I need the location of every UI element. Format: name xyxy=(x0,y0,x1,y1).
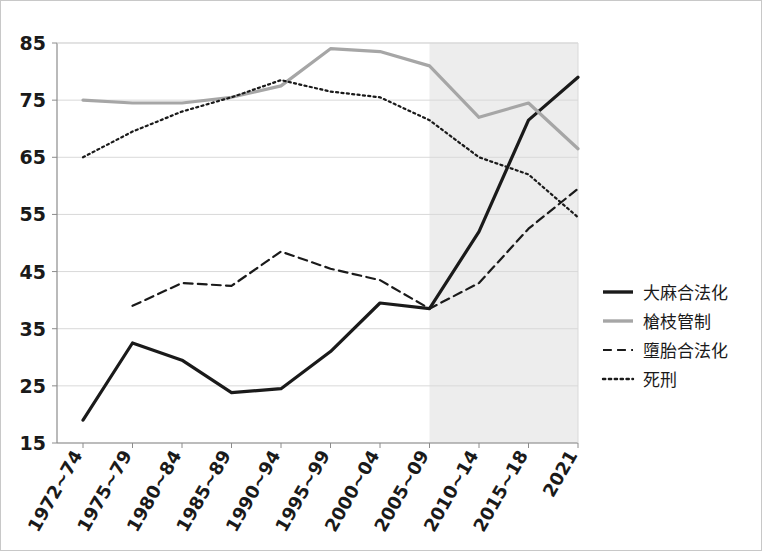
shade-rect xyxy=(430,43,579,443)
y-axis-label-45: 45 xyxy=(20,261,46,283)
x-axis-label-10: 2021 xyxy=(538,447,581,501)
y-axis-label-25: 25 xyxy=(20,375,46,397)
chart-legend: 大麻合法化槍枝管制墮胎合法化死刑 xyxy=(603,283,728,390)
y-axis-label-55: 55 xyxy=(20,203,46,225)
y-axis-label-65: 65 xyxy=(20,146,46,168)
y-axis-label-15: 15 xyxy=(20,432,46,454)
legend-label-2[interactable]: 墮胎合法化 xyxy=(643,341,728,361)
legend-label-3[interactable]: 死刑 xyxy=(643,370,677,390)
chart-container: 1525354555657585 1972~741975~791980~8419… xyxy=(0,0,762,551)
x-axis-tick-labels: 1972~741975~791980~841985~891990~941995~… xyxy=(23,447,581,536)
line-chart: 1525354555657585 1972~741975~791980~8419… xyxy=(0,0,762,551)
legend-label-0[interactable]: 大麻合法化 xyxy=(643,283,728,303)
y-axis-label-75: 75 xyxy=(20,89,46,111)
shaded-period-band xyxy=(430,43,579,443)
y-axis-label-35: 35 xyxy=(20,318,46,340)
y-axis-label-85: 85 xyxy=(20,32,46,54)
y-axis-tick-labels: 1525354555657585 xyxy=(20,32,46,454)
legend-label-1[interactable]: 槍枝管制 xyxy=(643,312,711,332)
